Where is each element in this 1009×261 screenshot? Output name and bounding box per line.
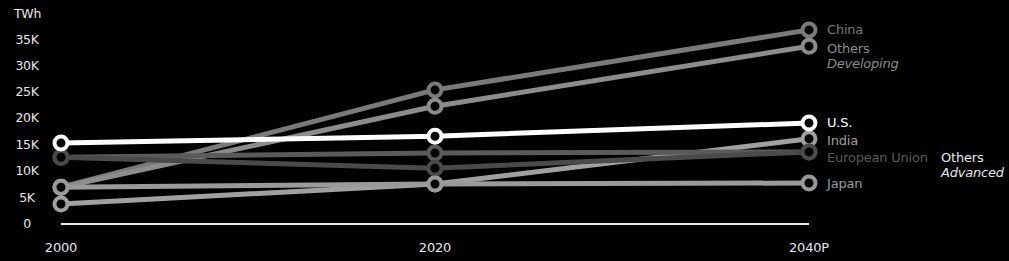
label-others-developing-line1: Others: [827, 41, 870, 56]
series-u-s-: [55, 117, 816, 150]
data-point-marker: [429, 147, 442, 160]
data-point-marker: [803, 177, 816, 190]
data-point-marker: [55, 181, 68, 194]
x-tick-2040p: 2040P: [789, 240, 829, 255]
label-india: India: [827, 133, 858, 148]
label-others-advanced: Others Advanced: [941, 150, 1004, 180]
y-axis-title: TWh: [14, 6, 41, 21]
label-european-union: European Union: [827, 150, 928, 165]
label-china: China: [827, 22, 863, 37]
label-others-developing: Others Developing: [827, 41, 899, 71]
x-tick-2020: 2020: [419, 240, 451, 255]
data-point-marker: [429, 100, 442, 113]
label-others-advanced-line2: Advanced: [941, 165, 1004, 180]
data-point-marker: [803, 145, 816, 158]
data-point-marker: [803, 23, 816, 36]
x-tick-2000: 2000: [45, 240, 77, 255]
y-tick-5k: 5K: [10, 191, 44, 205]
y-tick-15k: 15K: [10, 138, 44, 152]
data-point-marker: [55, 198, 68, 211]
label-others-advanced-line1: Others: [941, 150, 984, 165]
data-point-marker: [803, 40, 816, 53]
series-japan: [55, 177, 816, 194]
line-chart: [0, 0, 1009, 261]
label-others-developing-line2: Developing: [827, 56, 899, 71]
data-point-marker: [803, 117, 816, 130]
y-tick-30k: 30K: [10, 59, 44, 73]
y-tick-35k: 35K: [10, 33, 44, 47]
data-point-marker: [803, 132, 816, 145]
y-tick-10k: 10K: [10, 164, 44, 178]
series-layer: [55, 23, 816, 210]
y-tick-25k: 25K: [10, 85, 44, 99]
data-point-marker: [55, 137, 68, 150]
y-tick-0: 0: [10, 217, 44, 231]
data-point-marker: [429, 130, 442, 143]
data-point-marker: [429, 83, 442, 96]
label-japan: Japan: [827, 176, 862, 191]
y-tick-20k: 20K: [10, 111, 44, 125]
label-us: U.S.: [827, 115, 852, 130]
data-point-marker: [429, 178, 442, 191]
data-point-marker: [429, 162, 442, 175]
data-point-marker: [55, 151, 68, 164]
